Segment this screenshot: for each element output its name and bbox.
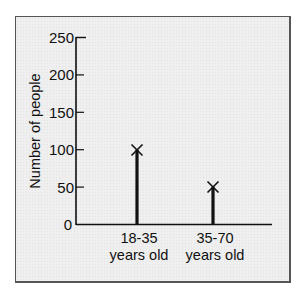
bar-18-35	[132, 145, 143, 225]
tick-label-50: 50	[57, 179, 74, 196]
category-2-line-2: years old	[186, 247, 245, 263]
y-ticks	[76, 38, 86, 188]
category-1-line-2: years old	[110, 247, 169, 263]
tick-label-250: 250	[49, 29, 74, 46]
category-1-line-1: 18-35	[120, 230, 157, 246]
x-category-labels: 18-35 years old 35-70 years old	[110, 230, 245, 263]
bar-35-70	[208, 182, 219, 225]
tick-label-100: 100	[49, 141, 74, 158]
y-axis-title: Number of people	[27, 73, 43, 188]
tick-label-200: 200	[49, 66, 74, 83]
category-2-line-1: 35-70	[196, 230, 233, 246]
tick-label-150: 150	[49, 104, 74, 121]
chart-svg: 0 50 100 150 200 250 Number of people 18…	[0, 0, 301, 293]
y-tick-labels: 0 50 100 150 200 250	[49, 29, 74, 233]
tick-label-0: 0	[64, 216, 72, 233]
